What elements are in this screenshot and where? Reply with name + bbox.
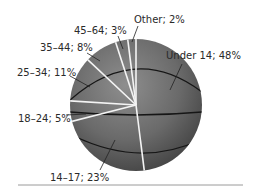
slice-label: 14–17; 23%	[50, 172, 109, 183]
pie-chart: Under 14; 48%14–17; 23%18–24; 5%25–34; 1…	[0, 0, 254, 193]
slice-label: 35–44; 8%	[40, 42, 93, 53]
slice-label: 45–64; 3%	[74, 25, 127, 36]
slice-label: Under 14; 48%	[166, 50, 241, 61]
slice-label: 18–24; 5%	[18, 113, 71, 124]
slice-label: 25–34; 11%	[17, 67, 76, 78]
slice-label: Other; 2%	[134, 14, 185, 25]
